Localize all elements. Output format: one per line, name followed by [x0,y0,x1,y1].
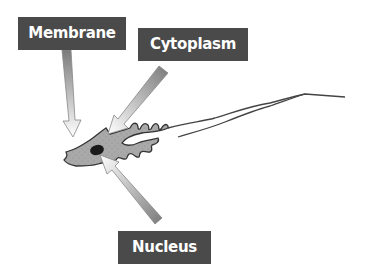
axon [168,94,345,137]
membrane-label: Membrane [18,17,126,50]
nucleus-arrow [100,155,162,224]
cytoplasm-arrow [108,66,168,134]
membrane-arrow [62,50,81,137]
nucleus-label: Nucleus [118,231,211,264]
cytoplasm-label: Cytoplasm [138,28,248,61]
